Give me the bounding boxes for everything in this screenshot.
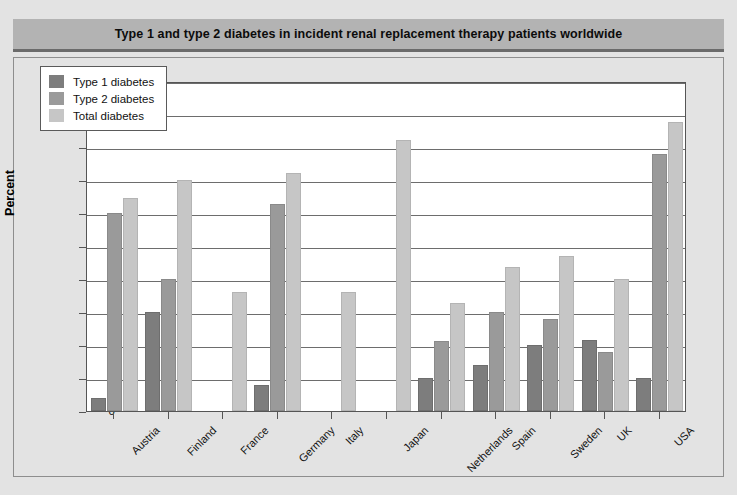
- legend-swatch: [49, 75, 64, 88]
- x-tick-mark: [604, 412, 605, 419]
- bar: [582, 340, 597, 411]
- bar: [254, 385, 269, 411]
- y-tick-mark: [79, 214, 86, 215]
- x-tick-mark: [168, 412, 169, 419]
- x-tick-mark: [277, 412, 278, 419]
- bar: [636, 378, 651, 411]
- x-tick-label: USA: [671, 424, 695, 448]
- bar: [543, 319, 558, 411]
- y-tick-mark: [79, 412, 86, 413]
- bar: [123, 198, 138, 411]
- y-tick-mark: [79, 148, 86, 149]
- gridline: [87, 83, 685, 84]
- bar: [473, 365, 488, 411]
- x-tick-label: UK: [615, 424, 634, 443]
- chart-frame: Percent 05101520253035404550 AustriaFinl…: [13, 57, 724, 477]
- legend-item: Type 1 diabetes: [49, 73, 154, 90]
- gridline: [87, 116, 685, 117]
- bar: [177, 180, 192, 411]
- x-tick-mark: [659, 412, 660, 419]
- y-tick-mark: [79, 313, 86, 314]
- bar: [450, 303, 465, 411]
- x-tick-label: Spain: [509, 424, 537, 452]
- x-tick-label: Italy: [343, 424, 366, 447]
- bar: [107, 213, 122, 411]
- bar: [614, 279, 629, 411]
- chart-legend: Type 1 diabetesType 2 diabetesTotal diab…: [40, 66, 167, 131]
- x-tick-mark: [222, 412, 223, 419]
- legend-swatch: [49, 109, 64, 122]
- bar: [161, 279, 176, 411]
- bar: [232, 292, 247, 411]
- x-tick-mark: [495, 412, 496, 419]
- bar: [559, 256, 574, 411]
- x-tick-label: France: [238, 424, 271, 457]
- bar: [527, 345, 542, 411]
- x-tick-mark: [386, 412, 387, 419]
- x-tick-label: Austria: [129, 424, 162, 457]
- x-tick-label: Finland: [184, 424, 218, 458]
- x-tick-mark: [441, 412, 442, 419]
- bar: [270, 204, 285, 411]
- bar: [489, 312, 504, 411]
- legend-label: Total diabetes: [73, 110, 144, 122]
- bar: [668, 122, 683, 411]
- x-tick-label: Germany: [296, 424, 336, 464]
- bar: [418, 378, 433, 411]
- legend-swatch: [49, 92, 64, 105]
- chart-figure: Type 1 and type 2 diabetes in incident r…: [0, 0, 737, 495]
- x-tick-label: Netherlands: [464, 424, 514, 474]
- bar: [341, 292, 356, 411]
- bar: [434, 341, 449, 411]
- y-tick-mark: [79, 280, 86, 281]
- x-tick-label: Japan: [401, 424, 431, 454]
- legend-label: Type 1 diabetes: [73, 76, 154, 88]
- y-axis-title: Percent: [3, 153, 17, 233]
- chart-title-banner: Type 1 and type 2 diabetes in incident r…: [13, 19, 724, 52]
- bar: [396, 140, 411, 411]
- bar: [286, 173, 301, 411]
- legend-label: Type 2 diabetes: [73, 93, 154, 105]
- x-tick-mark: [331, 412, 332, 419]
- page-title: Type 1 and type 2 diabetes in incident r…: [115, 27, 623, 41]
- bar: [505, 267, 520, 411]
- x-tick-mark: [550, 412, 551, 419]
- legend-item: Type 2 diabetes: [49, 90, 154, 107]
- legend-item: Total diabetes: [49, 107, 154, 124]
- y-tick-mark: [79, 247, 86, 248]
- gridline: [87, 149, 685, 150]
- bar: [145, 312, 160, 411]
- x-tick-mark: [113, 412, 114, 419]
- x-tick-label: Sweden: [567, 424, 604, 461]
- y-tick-mark: [79, 346, 86, 347]
- y-tick-mark: [79, 379, 86, 380]
- bar: [91, 398, 106, 411]
- plot-area: [86, 82, 686, 412]
- bar: [598, 352, 613, 411]
- bar: [652, 154, 667, 411]
- y-tick-mark: [79, 181, 86, 182]
